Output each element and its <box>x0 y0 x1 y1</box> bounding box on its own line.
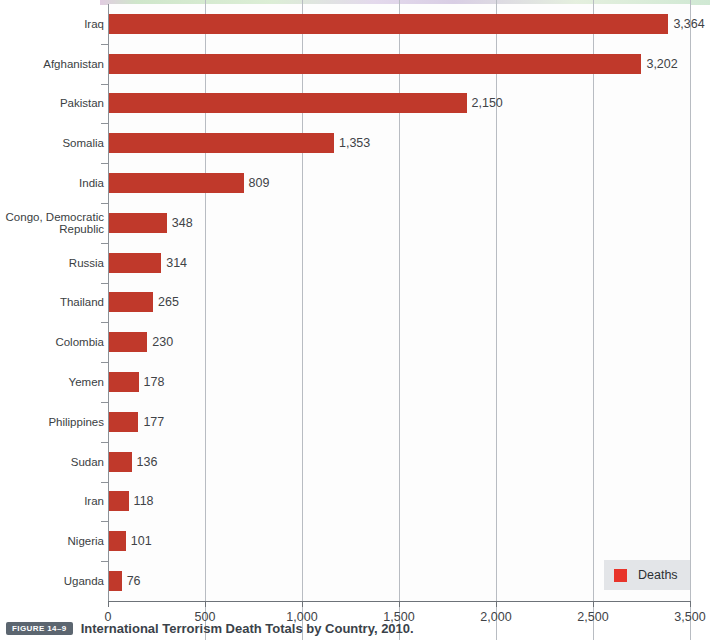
chart-legend: Deaths <box>604 560 690 590</box>
bar <box>109 491 129 511</box>
category-label-wrap: Sudan <box>0 442 104 482</box>
figure-caption: FIGURE 14–9 International Terrorism Deat… <box>6 621 414 636</box>
bar <box>109 54 641 74</box>
category-label-wrap: Somalia <box>0 123 104 163</box>
bar <box>109 253 161 273</box>
bar <box>109 531 126 551</box>
y-axis-tick <box>101 561 108 562</box>
bar <box>109 292 153 312</box>
y-axis-tick <box>101 362 108 363</box>
y-axis-tick <box>101 123 108 124</box>
bar-value-label: 3,202 <box>646 57 677 71</box>
bar-value-label: 118 <box>134 494 154 508</box>
y-axis-line <box>108 4 109 602</box>
y-axis-tick <box>101 84 108 85</box>
chart-row: India809 <box>0 163 710 203</box>
chart-row: Sudan136 <box>0 442 710 482</box>
category-label-wrap: Colombia <box>0 322 104 362</box>
category-label: Colombia <box>4 336 104 349</box>
bar <box>109 213 167 233</box>
chart-row: Somalia1,353 <box>0 123 710 163</box>
category-label: Russia <box>4 256 104 269</box>
chart-row: Yemen178 <box>0 362 710 402</box>
category-label-wrap: Yemen <box>0 362 104 402</box>
category-label-wrap: Thailand <box>0 283 104 323</box>
category-label: India <box>4 177 104 190</box>
y-axis-tick <box>101 44 108 45</box>
y-axis-tick <box>101 521 108 522</box>
y-axis-tick <box>101 203 108 204</box>
bar-value-label: 177 <box>143 415 164 429</box>
category-label: Congo, Democratic Republic <box>4 210 104 235</box>
chart-row: Nigeria101 <box>0 521 710 561</box>
chart-row: Thailand265 <box>0 283 710 323</box>
chart-row: Pakistan2,150 <box>0 84 710 124</box>
category-label-wrap: Iran <box>0 482 104 522</box>
x-axis-tick <box>302 601 303 607</box>
bar <box>109 14 668 34</box>
y-axis-tick <box>101 322 108 323</box>
y-axis-tick <box>101 482 108 483</box>
chart-row: Philippines177 <box>0 402 710 442</box>
y-axis-tick <box>101 243 108 244</box>
category-label-wrap: Nigeria <box>0 521 104 561</box>
bar-value-label: 809 <box>249 176 270 190</box>
chart-row: Iraq3,364 <box>0 4 710 44</box>
chart-row: Congo, Democratic Republic348 <box>0 203 710 243</box>
bar-value-label: 265 <box>158 295 179 309</box>
bar-value-label: 3,364 <box>673 17 704 31</box>
legend-swatch-deaths <box>614 569 627 582</box>
y-axis-tick <box>101 163 108 164</box>
chart-row: Iran118 <box>0 482 710 522</box>
bar-value-label: 230 <box>152 335 173 349</box>
category-label-wrap: Congo, Democratic Republic <box>0 203 104 243</box>
bar-value-label: 101 <box>131 534 152 548</box>
x-axis-tick <box>399 601 400 607</box>
bar <box>109 412 138 432</box>
bar <box>109 173 244 193</box>
category-label-wrap: Russia <box>0 243 104 283</box>
bar-value-label: 1,353 <box>339 136 370 150</box>
legend-label-deaths: Deaths <box>638 568 678 582</box>
bar-value-label: 2,150 <box>472 96 503 110</box>
x-axis-tick <box>205 601 206 607</box>
category-label: Afghanistan <box>4 57 104 70</box>
chart-row: Afghanistan3,202 <box>0 44 710 84</box>
x-axis-tick-label: 2,500 <box>577 610 608 624</box>
category-label: Pakistan <box>4 97 104 110</box>
category-label: Yemen <box>4 376 104 389</box>
category-label: Iraq <box>4 18 104 31</box>
category-label: Iran <box>4 495 104 508</box>
figure-number-badge: FIGURE 14–9 <box>6 622 73 635</box>
bar-value-label: 136 <box>137 455 158 469</box>
category-label: Uganda <box>4 575 104 588</box>
category-label-wrap: Afghanistan <box>0 44 104 84</box>
bar <box>109 452 132 472</box>
category-label: Somalia <box>4 137 104 150</box>
category-label-wrap: Uganda <box>0 561 104 601</box>
bar <box>109 93 467 113</box>
category-label-wrap: India <box>0 163 104 203</box>
bar-value-label: 76 <box>127 574 141 588</box>
category-label: Nigeria <box>4 535 104 548</box>
bar <box>109 332 147 352</box>
category-label: Philippines <box>4 416 104 429</box>
category-label: Sudan <box>4 455 104 468</box>
category-label-wrap: Iraq <box>0 4 104 44</box>
figure-caption-text: International Terrorism Death Totals by … <box>81 621 414 636</box>
category-label-wrap: Philippines <box>0 402 104 442</box>
bar <box>109 133 334 153</box>
y-axis-tick <box>101 442 108 443</box>
bar <box>109 571 122 591</box>
x-axis-tick <box>690 601 691 607</box>
category-label-wrap: Pakistan <box>0 84 104 124</box>
chart-row: Colombia230 <box>0 322 710 362</box>
x-axis-tick-label: 2,000 <box>480 610 511 624</box>
chart-row: Russia314 <box>0 243 710 283</box>
x-axis-tick <box>593 601 594 607</box>
y-axis-tick <box>101 283 108 284</box>
bar-value-label: 178 <box>144 375 165 389</box>
bar-chart: Iraq3,364Afghanistan3,202Pakistan2,150So… <box>0 0 710 640</box>
y-axis-tick <box>101 402 108 403</box>
x-axis-tick-label: 3,500 <box>674 610 705 624</box>
